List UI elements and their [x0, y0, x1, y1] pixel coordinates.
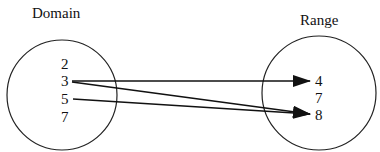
domain-element: 5: [61, 92, 69, 107]
arrow-5-to-8: [73, 99, 310, 114]
arrow-3-to-8: [72, 82, 310, 114]
domain-label: Domain: [32, 6, 80, 21]
range-element: 8: [315, 108, 323, 123]
range-element: 4: [315, 74, 323, 89]
domain-element: 7: [61, 110, 69, 125]
range-label: Range: [300, 13, 338, 28]
range-element: 7: [315, 91, 323, 106]
domain-element: 3: [61, 74, 69, 89]
domain-element: 2: [61, 57, 69, 72]
